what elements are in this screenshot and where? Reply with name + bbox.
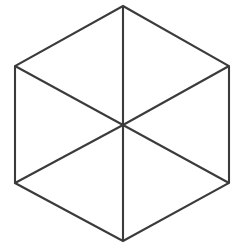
figure-canvas (0, 0, 233, 245)
hexagon-figure (0, 0, 233, 245)
